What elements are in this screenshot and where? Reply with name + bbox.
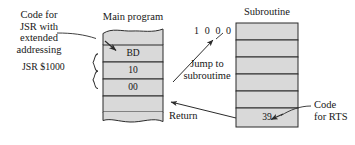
- sub-row-2: [236, 40, 298, 57]
- label-target-address: 1 0 0 0: [194, 25, 233, 36]
- label-return: Return: [169, 110, 213, 122]
- jsr-operand-brace: [93, 54, 98, 89]
- main-cell-bd-text: BD: [103, 48, 163, 58]
- sub-row-5: [236, 91, 298, 108]
- title-subroutine: Subroutine: [222, 6, 312, 17]
- main-row-blank-bottom: [103, 96, 163, 112]
- label-jsr-operand: JSR $1000: [22, 61, 65, 72]
- main-cell-10-text: 10: [103, 65, 163, 75]
- sub-cell-39-text: 39: [236, 112, 298, 122]
- sub-row-4: [236, 74, 298, 91]
- figure-canvas: Code for JSR with extended addressing JS…: [0, 0, 355, 145]
- label-code-for-jsr: Code for JSR with extended addressing: [6, 9, 72, 55]
- title-main-program: Main program: [88, 11, 178, 22]
- main-program-torn-bottom: [103, 112, 163, 122]
- main-cell-00-text: 00: [103, 82, 163, 92]
- main-program-box: [103, 29, 163, 122]
- sub-row-1: [236, 23, 298, 40]
- sub-row-3: [236, 57, 298, 74]
- label-code-for-rts: Code for RTS: [314, 99, 355, 122]
- label-jump-to-subroutine: Jump to subroutime: [176, 58, 238, 81]
